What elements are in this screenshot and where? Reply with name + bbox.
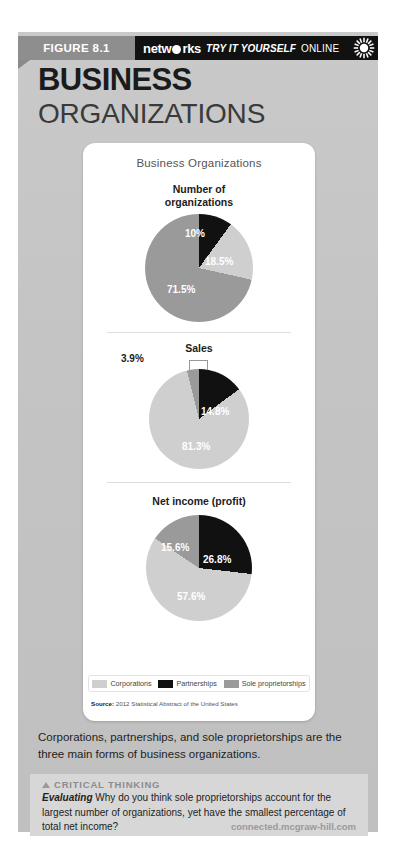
legend-label-partnerships: Partnerships [176, 679, 216, 688]
networks-logo-post: rks [182, 41, 201, 56]
pie-2-leader-line [189, 360, 208, 370]
pie-chart-1: 10% 18.5% 71.5% [145, 214, 253, 322]
legend-item-partnerships: Partnerships [158, 679, 216, 688]
figure-number-chip: FIGURE 8.1 [18, 36, 135, 60]
legend-swatch-corporations [92, 680, 107, 688]
pie-2-label-sole-proprietorships: 3.9% [121, 353, 144, 364]
try-it-yourself-label: TRY IT YOURSELF [206, 43, 296, 54]
chart-legend: Corporations Partnerships Sole proprieto… [88, 675, 310, 692]
pie-2-label-corporations: 81.3% [182, 441, 210, 452]
legend-swatch-partnerships [158, 680, 173, 688]
legend-swatch-sole-proprietorships [224, 680, 239, 688]
page-title-line1: BUSINESS [38, 64, 358, 96]
chart-source: Source: 2012 Statistical Abstract of the… [91, 700, 238, 707]
legend-label-sole-proprietorships: Sole proprietorships [242, 679, 306, 688]
triangle-icon [42, 782, 50, 788]
sun-burst-icon [353, 37, 375, 59]
networks-logo-pre: netw [143, 41, 171, 56]
pie-3-label-corporations: 57.6% [177, 591, 205, 602]
connected-url-link[interactable]: connected.mcgraw-hill.com [231, 821, 356, 832]
critical-thinking-box: CRITICAL THINKING Evaluating Why do you … [30, 774, 368, 836]
pie-1-label-partnerships: 10% [185, 228, 205, 239]
chart-number-of-organizations: Number of organizations 10% 18.5% 71.5% [93, 183, 305, 322]
networks-logo: netw rks [143, 41, 201, 56]
chart-divider-2 [107, 482, 291, 483]
source-text: 2012 Statistical Abstract of the United … [116, 700, 238, 707]
pie-3-label-partnerships: 26.8% [203, 554, 231, 565]
pie-1-label-sole-proprietorships: 71.5% [167, 284, 195, 295]
pie-1-label-corporations: 18.5% [205, 256, 233, 267]
figure-title: BUSINESS ORGANIZATIONS [38, 64, 358, 130]
legend-label-corporations: Corporations [110, 679, 151, 688]
pie-chart-3: 26.8% 57.6% 15.6% [146, 515, 252, 621]
page-title-line2: ORGANIZATIONS [38, 98, 358, 130]
figure-page: FIGURE 8.1 netw rks TRY IT YOURSELF ONLI… [0, 0, 397, 851]
networks-banner[interactable]: netw rks TRY IT YOURSELF ONLINE [135, 36, 378, 60]
chart-divider-1 [107, 332, 291, 333]
figure-caption: Corporations, partnerships, and sole pro… [38, 729, 356, 763]
chart-card: Business Organizations Number of organiz… [83, 143, 315, 721]
chart-sales: Sales 14.8% 81.3% 3.9% [93, 342, 305, 469]
source-prefix: Source: [91, 700, 114, 707]
online-label: ONLINE [301, 43, 339, 54]
chart-3-title: Net income (profit) [93, 495, 305, 508]
chart-1-title-line2: organizations [165, 196, 233, 208]
globe-icon [172, 45, 181, 54]
chart-3-pie-holder: 26.8% 57.6% 15.6% [83, 515, 315, 621]
critical-thinking-label: CRITICAL THINKING [54, 779, 160, 790]
chart-net-income: Net income (profit) 26.8% 57.6% 15.6% [93, 495, 305, 621]
pie-chart-2: 14.8% 81.3% 3.9% [149, 369, 249, 469]
legend-item-corporations: Corporations [92, 679, 151, 688]
pie-3-label-sole-proprietorships: 15.6% [161, 542, 189, 553]
chart-card-title: Business Organizations [93, 157, 305, 169]
figure-header-bar: FIGURE 8.1 netw rks TRY IT YOURSELF ONLI… [18, 36, 378, 60]
pie-2-label-partnerships: 14.8% [201, 406, 229, 417]
legend-item-sole-proprietorships: Sole proprietorships [224, 679, 306, 688]
chart-1-title-line1: Number of [173, 183, 226, 195]
chart-2-pie-holder: 14.8% 81.3% 3.9% [83, 369, 315, 469]
critical-thinking-heading: CRITICAL THINKING [42, 779, 356, 790]
chart-1-title: Number of organizations [93, 183, 305, 209]
chart-1-pie-holder: 10% 18.5% 71.5% [83, 214, 315, 322]
critical-thinking-prompt-label: Evaluating [42, 792, 93, 803]
